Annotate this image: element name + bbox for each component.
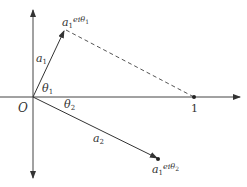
point-p1-label: a1eiθ1 bbox=[62, 15, 89, 30]
angle-theta2-label: θ2 bbox=[64, 98, 75, 112]
origin-label: O bbox=[18, 101, 28, 115]
diagram-svg: O 1 a1eiθ1 a1eiθ2 a1 a2 θ1 θ2 bbox=[0, 0, 247, 187]
vector-a2 bbox=[33, 97, 157, 158]
point-p2-label: a1eiθ2 bbox=[152, 162, 179, 177]
diagram-canvas: O 1 a1eiθ1 a1eiθ2 a1 a2 θ1 θ2 bbox=[0, 0, 247, 187]
unit-point-label: 1 bbox=[191, 102, 198, 115]
vector-a1-label: a1 bbox=[36, 52, 47, 66]
vector-a2-label: a2 bbox=[93, 132, 104, 146]
angle-theta1-label: θ1 bbox=[42, 82, 53, 96]
point-p2 bbox=[156, 157, 160, 161]
unit-point bbox=[192, 95, 196, 99]
dashed-connector bbox=[66, 30, 194, 97]
